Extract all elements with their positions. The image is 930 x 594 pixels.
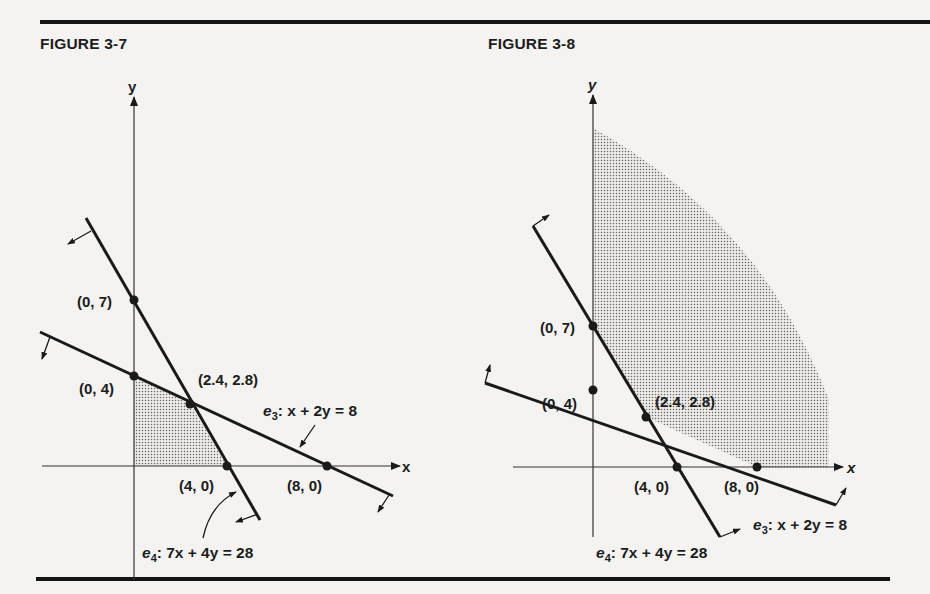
point-label-2.4-2.8: (2.4, 2.8) [198,371,258,388]
point-label-4-0: (4, 0) [634,478,669,495]
constraint-line-e4 [86,218,260,520]
e3-direction-arrow-right [836,488,846,505]
point-label-0-7: (0, 7) [77,293,112,310]
feasible-region [134,376,227,466]
point-2.4-2.8 [186,400,195,409]
e4-direction-arrow-top [533,215,549,226]
y-axis-label: y [128,78,137,95]
point-label-8-0: (8, 0) [287,477,322,494]
equation-label-e4: e4: 7x + 4y = 28 [142,544,254,564]
x-axis-label: x [846,459,856,476]
e3-direction-arrow-left [42,337,50,359]
point-label-2.4-2.8: (2.4, 2.8) [655,393,715,410]
point-label-0-7: (0, 7) [540,319,575,336]
e3-label-pointer [300,425,315,447]
feasible-region [593,128,829,467]
point-label-4-0: (4, 0) [179,477,214,494]
figure-3-8: y x (0, 7) (0, 4) (2.4, 2.8) (4, 0) (8, … [485,76,856,564]
e4-direction-arrow-top [68,231,91,244]
x-axis-label: x [402,458,411,475]
figure-3-7: y x (0, 7) (0, 4) (2.4, 2.8) (4, 0) (8, … [40,78,411,580]
e3-direction-arrow-right [378,495,389,512]
e4-direction-arrow-bottom [720,529,740,537]
e4-direction-arrow-bottom [236,514,258,522]
y-axis-label: y [587,76,597,93]
point-4-0 [223,462,232,471]
point-label-8-0: (8, 0) [724,478,759,495]
point-2.4-2.8 [642,413,651,422]
point-0-4 [589,386,598,395]
equation-label-e3: e3: x + 2y = 8 [753,516,847,536]
equation-label-e4: e4: 7x + 4y = 28 [596,544,708,564]
e4-label-pointer [203,492,236,538]
point-4-0 [673,463,682,472]
e3-direction-arrow-left [485,365,490,383]
point-8-0 [753,463,762,472]
equation-label-e3: e3: x + 2y = 8 [263,402,357,422]
point-0-7 [589,322,598,331]
figures-canvas: y x (0, 7) (0, 4) (2.4, 2.8) (4, 0) (8, … [0,0,930,594]
point-0-7 [130,296,139,305]
point-label-0-4: (0, 4) [542,395,577,412]
point-0-4 [130,372,139,381]
point-8-0 [323,462,332,471]
point-label-0-4: (0, 4) [79,380,114,397]
